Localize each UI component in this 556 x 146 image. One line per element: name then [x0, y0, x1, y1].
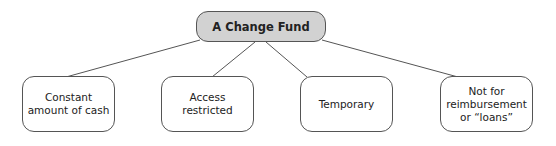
connector-root-to-child-2: [212, 42, 255, 77]
root-node-label: A Change Fund: [212, 20, 309, 34]
child-node-label: Temporary: [319, 98, 375, 111]
child-node-label: Access restricted: [166, 91, 249, 117]
child-node-not-for-reimbursement: Not for reimbursement or “loans”: [440, 76, 533, 132]
connector-root-to-child-1: [66, 40, 200, 77]
connector-root-to-child-4: [322, 40, 458, 77]
child-node-temporary: Temporary: [300, 76, 393, 132]
child-node-label: Not for reimbursement or “loans”: [445, 85, 528, 124]
child-node-access-restricted: Access restricted: [161, 76, 254, 132]
root-node: A Change Fund: [196, 11, 326, 42]
child-node-constant-amount: Constant amount of cash: [22, 76, 115, 132]
child-node-label: Constant amount of cash: [27, 91, 110, 117]
connector-root-to-child-3: [266, 42, 307, 77]
